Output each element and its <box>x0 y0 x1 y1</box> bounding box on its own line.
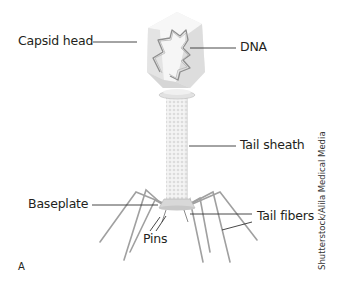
image-credit: Shutterstock/Alila Medical Media <box>318 131 327 270</box>
label-tail-sheath: Tail sheath <box>240 139 305 152</box>
baseplate <box>159 199 195 211</box>
label-baseplate: Baseplate <box>28 198 88 211</box>
phage-diagram: Capsid head DNA Tail sheath Baseplate Pi… <box>0 0 344 286</box>
label-tail-fibers: Tail fibers <box>257 210 314 223</box>
panel-letter: A <box>18 262 25 272</box>
collar <box>159 89 195 99</box>
label-capsid-head: Capsid head <box>18 35 93 48</box>
label-pins: Pins <box>143 233 167 246</box>
label-dna: DNA <box>240 41 267 54</box>
tail-sheath <box>166 98 188 202</box>
